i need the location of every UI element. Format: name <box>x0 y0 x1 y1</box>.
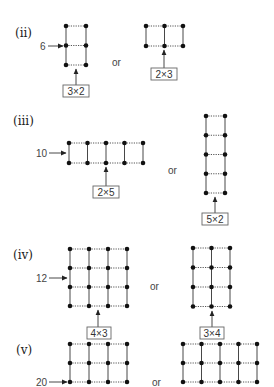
dot-icon <box>191 265 196 270</box>
dot-icon <box>223 133 228 138</box>
dot-icon <box>125 266 130 271</box>
dot-icon <box>236 380 241 385</box>
dot-icon <box>181 24 186 29</box>
dot-icon <box>162 44 167 49</box>
dot-icon <box>87 304 92 309</box>
dot-icon <box>204 152 209 157</box>
dot-icon <box>228 304 233 309</box>
dot-icon <box>68 285 73 290</box>
dot-icon <box>181 380 186 385</box>
dot-icon <box>68 247 73 252</box>
dot-icon <box>106 361 111 366</box>
dot-icon <box>162 24 167 29</box>
dot-icon <box>141 141 146 146</box>
or-text: or <box>150 281 160 292</box>
dot-array <box>191 246 233 309</box>
dot-icon <box>106 247 111 252</box>
dot-icon <box>144 24 149 29</box>
dot-icon <box>125 361 130 366</box>
dot-icon <box>85 141 90 146</box>
dot-icon <box>223 114 228 119</box>
dot-icon <box>84 24 89 29</box>
dot-icon <box>141 161 146 166</box>
dot-icon <box>199 342 204 347</box>
dot-icon <box>87 285 92 290</box>
total-number: 10 <box>36 148 48 159</box>
dot-icon <box>84 63 89 68</box>
dot-array <box>67 141 146 166</box>
dot-icon <box>104 141 109 146</box>
dot-icon <box>122 141 127 146</box>
dot-icon <box>125 285 130 290</box>
dot-icon <box>87 380 92 385</box>
section-iv: (iv) 12 4×3 or 3×4 <box>13 246 232 339</box>
dot-icon <box>104 161 109 166</box>
dot-array <box>181 342 260 385</box>
dot-icon <box>144 44 149 49</box>
dot-icon <box>85 161 90 166</box>
array-caption: 3×2 <box>68 86 85 97</box>
multiplication-arrays-figure: (ii) 6 3×2 or 2×3 (iii) 10 2×5 or 5×2 (i… <box>0 0 274 387</box>
section-iii: (iii) 10 2×5 or 5×2 <box>13 114 228 225</box>
dot-icon <box>106 342 111 347</box>
dot-icon <box>228 246 233 251</box>
dot-icon <box>87 247 92 252</box>
dot-icon <box>67 161 72 166</box>
dot-icon <box>209 304 214 309</box>
dot-icon <box>87 361 92 366</box>
or-text: or <box>168 165 178 176</box>
array-caption: 5×2 <box>207 214 224 225</box>
dot-icon <box>106 266 111 271</box>
dot-icon <box>191 285 196 290</box>
dot-icon <box>106 304 111 309</box>
dot-icon <box>236 361 241 366</box>
dot-icon <box>218 342 223 347</box>
array-caption: 3×4 <box>204 328 221 339</box>
dot-icon <box>125 304 130 309</box>
dot-icon <box>191 304 196 309</box>
dot-icon <box>64 24 69 29</box>
dot-icon <box>67 141 72 146</box>
dot-icon <box>209 285 214 290</box>
dot-icon <box>64 43 69 48</box>
dot-array <box>68 342 130 385</box>
dot-icon <box>255 342 260 347</box>
dot-icon <box>218 361 223 366</box>
dot-icon <box>236 342 241 347</box>
dot-icon <box>204 171 209 176</box>
or-text: or <box>112 57 122 68</box>
section-label: (iv) <box>13 248 33 262</box>
array-caption: 4×3 <box>91 328 108 339</box>
dot-icon <box>204 191 209 196</box>
dot-icon <box>125 342 130 347</box>
dot-icon <box>106 285 111 290</box>
dot-array <box>64 24 89 68</box>
total-number: 12 <box>36 273 48 284</box>
dot-icon <box>125 380 130 385</box>
dot-icon <box>68 342 73 347</box>
dot-array <box>68 247 130 309</box>
dot-icon <box>68 304 73 309</box>
dot-icon <box>209 265 214 270</box>
dot-icon <box>223 152 228 157</box>
dot-icon <box>122 161 127 166</box>
section-label: (v) <box>16 343 32 357</box>
dot-icon <box>255 380 260 385</box>
dot-icon <box>209 246 214 251</box>
array-caption: 2×3 <box>156 69 173 80</box>
dot-icon <box>228 265 233 270</box>
dot-icon <box>125 247 130 252</box>
dot-icon <box>68 361 73 366</box>
dot-icon <box>181 44 186 49</box>
dot-icon <box>64 63 69 68</box>
section-ii: (ii) 6 3×2 or 2×3 <box>15 24 185 97</box>
dot-icon <box>204 114 209 119</box>
dot-icon <box>199 361 204 366</box>
dot-icon <box>199 380 204 385</box>
section-v: (v) 20 or <box>16 342 259 387</box>
total-number: 20 <box>36 377 48 387</box>
dot-icon <box>84 43 89 48</box>
dot-icon <box>223 191 228 196</box>
array-caption: 2×5 <box>98 187 115 198</box>
dot-icon <box>106 380 111 385</box>
